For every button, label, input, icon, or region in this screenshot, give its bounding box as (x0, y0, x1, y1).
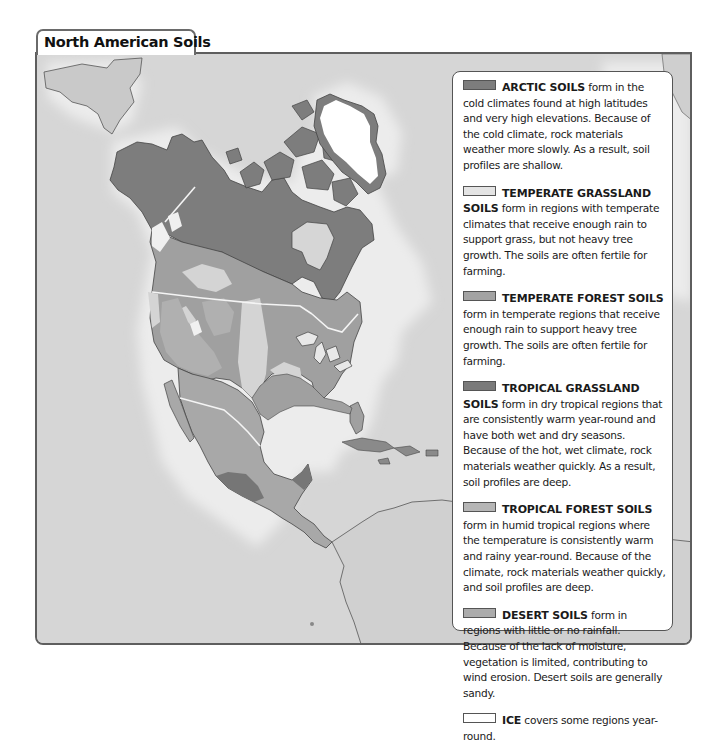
legend-term: TEMPERATE FOREST SOILS (502, 292, 664, 305)
legend-term: ARCTIC SOILS (502, 81, 585, 94)
legend-entry-ice: ICE covers some regions year-round. (463, 713, 666, 744)
legend-text: form in regions with little or no rainfa… (463, 609, 662, 699)
legend-text: form in temperate regions that receive e… (463, 308, 660, 367)
legend-entry-tropical-grassland: TROPICAL GRASSLAND SOILS form in dry tro… (463, 381, 666, 490)
galapagos (310, 622, 314, 626)
map-legend: ARCTIC SOILS form in the cold climates f… (452, 71, 673, 631)
legend-term: TROPICAL FOREST SOILS (502, 503, 652, 516)
legend-entry-tropical-forest: TROPICAL FOREST SOILS form in humid trop… (463, 502, 666, 596)
map-title-tab: North American Soils (36, 29, 196, 55)
tropical-forest-swatch (463, 502, 496, 512)
legend-entry-arctic: ARCTIC SOILS form in the cold climates f… (463, 80, 666, 174)
arctic-swatch (463, 80, 496, 90)
legend-text: form in dry tropical regions that are co… (463, 398, 662, 488)
legend-entry-temperate-grassland: TEMPERATE GRASSLAND SOILS form in region… (463, 186, 666, 280)
desert-swatch (463, 608, 496, 618)
tropical-grassland-swatch (463, 381, 496, 391)
legend-entry-desert: DESERT SOILS form in regions with little… (463, 608, 666, 702)
map-title: North American Soils (44, 34, 211, 50)
temperate-grassland-swatch (463, 186, 496, 196)
legend-term: DESERT SOILS (502, 609, 588, 622)
legend-entry-temperate-forest: TEMPERATE FOREST SOILS form in temperate… (463, 291, 666, 369)
legend-text: form in the cold climates found at high … (463, 81, 650, 171)
legend-text: form in humid tropical regions where the… (463, 519, 666, 593)
legend-term: ICE (502, 714, 521, 727)
ice-swatch (463, 713, 496, 723)
temperate-forest-swatch (463, 291, 496, 301)
